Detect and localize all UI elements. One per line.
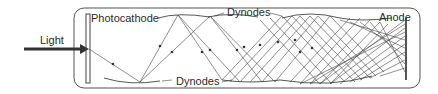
electron-paths bbox=[89, 15, 405, 84]
dynodes-bottom-label: Dynodes bbox=[176, 76, 219, 87]
label-pointers bbox=[162, 13, 282, 82]
anode-plate bbox=[405, 18, 407, 80]
light-label: Light bbox=[40, 35, 64, 46]
anode-label: Anode bbox=[379, 12, 411, 23]
dynodes-top-label: Dynodes bbox=[227, 7, 270, 18]
upper-dynodes bbox=[158, 14, 392, 20]
photocathode-label: Photocathode bbox=[91, 13, 159, 24]
